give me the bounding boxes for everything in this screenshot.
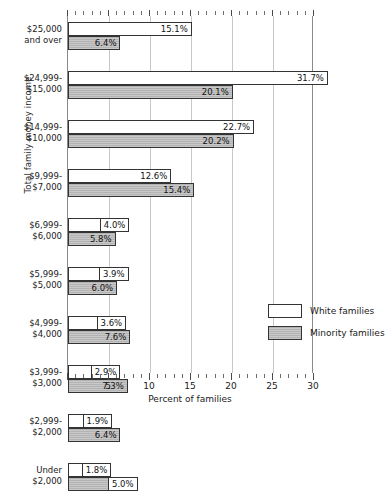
bar-minority-families — [68, 477, 109, 491]
category-label-line: $2,000 — [2, 476, 62, 487]
tick-2 — [83, 374, 84, 378]
tick-30 — [313, 10, 314, 16]
bar-minority-families: 6.0% — [68, 281, 117, 295]
x-tick-label-20: 20 — [225, 381, 236, 391]
tick-27 — [288, 11, 289, 15]
bar-row: 12.6% — [68, 169, 312, 183]
bar-row: 15.1% — [68, 22, 312, 36]
bar-minority-families: 6.4% — [68, 428, 120, 442]
tick-23 — [256, 374, 257, 378]
tick-9 — [141, 374, 142, 378]
tick-29 — [305, 374, 306, 378]
tick-4 — [100, 374, 101, 378]
bar-white-families — [68, 414, 84, 428]
bar-value-label: 12.6% — [137, 170, 170, 184]
bar-row: 4.0% — [68, 218, 312, 232]
tick-23 — [256, 11, 257, 15]
tick-5 — [108, 373, 109, 380]
bar-value-label: 20.2% — [200, 135, 233, 149]
bar-row: 6.4% — [68, 428, 312, 442]
bar-value-label: 20.1% — [199, 86, 232, 100]
tick-3 — [92, 374, 93, 378]
tick-8 — [133, 11, 134, 15]
tick-22 — [247, 374, 248, 378]
tick-15 — [190, 373, 191, 380]
category-label: Under$2,000 — [2, 465, 62, 487]
bar-row: 5.0% — [68, 477, 312, 491]
tick-28 — [297, 374, 298, 378]
tick-2 — [83, 11, 84, 15]
bar-value-label: 4.0% — [101, 218, 130, 232]
tick-10 — [149, 373, 150, 380]
category-label: $9,999-$7,000 — [2, 171, 62, 193]
bar-white-families — [68, 218, 101, 232]
category-label-line: $10,000 — [2, 133, 62, 144]
tick-28 — [297, 11, 298, 15]
tick-6 — [116, 11, 117, 15]
category-label-line: $2,000 — [2, 427, 62, 438]
tick-26 — [280, 11, 281, 15]
bar-row: 6.4% — [68, 36, 312, 50]
tick-7 — [124, 374, 125, 378]
category-label-line: $25,000 — [2, 24, 62, 35]
bar-row: 5.8% — [68, 232, 312, 246]
x-axis-tick-labels: 51015202530 — [67, 381, 313, 395]
bar-minority-families: 5.8% — [68, 232, 116, 246]
tick-6 — [116, 374, 117, 378]
category-label-line: and over — [2, 35, 62, 46]
bar-row: 22.7% — [68, 120, 312, 134]
bar-row: 20.1% — [68, 85, 312, 99]
tick-13 — [174, 374, 175, 378]
tick-3 — [92, 11, 93, 15]
bar-minority-families: 15.4% — [68, 183, 194, 197]
tick-21 — [239, 374, 240, 378]
legend-swatch-minority-families — [268, 326, 302, 340]
tick-4 — [100, 11, 101, 15]
bar-value-label: 15.1% — [158, 23, 191, 37]
tick-27 — [288, 374, 289, 378]
category-label: $24,999-$15,000 — [2, 73, 62, 95]
bar-minority-families: 20.1% — [68, 85, 233, 99]
tick-30 — [313, 373, 314, 380]
bar-white-families: 31.7% — [68, 71, 328, 85]
category-label: $2,999-$2,000 — [2, 416, 62, 438]
bar-row: 6.0% — [68, 281, 312, 295]
category-label: $14,999-$10,000 — [2, 122, 62, 144]
category-label: $6,999-$6,000 — [2, 220, 62, 242]
bar-value-label: 1.9% — [84, 414, 113, 428]
bar-row: 3.9% — [68, 267, 312, 281]
bar-minority-families: 7.6% — [68, 330, 130, 344]
bar-value-label: 22.7% — [220, 121, 253, 135]
legend-label-white-families: White families — [310, 304, 374, 318]
tick-16 — [198, 374, 199, 378]
tick-1 — [75, 11, 76, 15]
bar-value-label: 5.8% — [87, 233, 115, 247]
category-label-line: $3,999- — [2, 367, 62, 378]
bar-white-families: 22.7% — [68, 120, 254, 134]
category-label-line: $4,000 — [2, 329, 62, 340]
bar-minority-families: 6.4% — [68, 36, 120, 50]
category-label-line: $24,999- — [2, 73, 62, 84]
bar-value-label: 6.0% — [89, 282, 117, 296]
category-label-line: $5,999- — [2, 269, 62, 280]
category-label: $3,999-$3,000 — [2, 367, 62, 389]
bar-value-label: 3.6% — [98, 316, 127, 330]
tick-12 — [165, 11, 166, 15]
category-label: $4,999-$4,000 — [2, 318, 62, 340]
category-label-line: $3,000 — [2, 378, 62, 389]
bar-white-families — [68, 463, 83, 477]
tick-18 — [215, 11, 216, 15]
bar-white-families — [68, 267, 100, 281]
category-label-line: $2,999- — [2, 416, 62, 427]
legend-item-minority-families: Minority families — [268, 323, 388, 345]
bar-white-families: 12.6% — [68, 169, 171, 183]
legend-swatch-white-families — [268, 304, 302, 318]
bar-value-label: 15.4% — [160, 184, 193, 198]
category-label-line: $15,000 — [2, 84, 62, 95]
bar-value-label: 31.7% — [294, 72, 327, 86]
legend-label-minority-families: Minority families — [310, 326, 385, 340]
bar-row: 15.4% — [68, 183, 312, 197]
tick-19 — [223, 374, 224, 378]
bar-white-families — [68, 316, 98, 330]
